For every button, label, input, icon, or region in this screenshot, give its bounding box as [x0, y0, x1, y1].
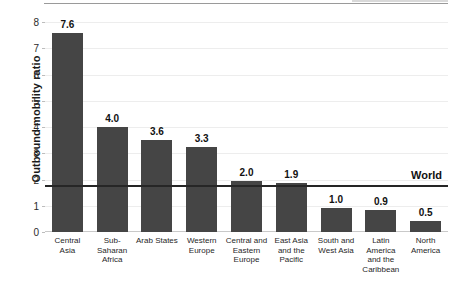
bar[interactable]	[365, 210, 396, 232]
bar[interactable]	[276, 183, 307, 232]
x-axis-category-label: Western Europe	[179, 236, 224, 255]
top-rule-faint-mark	[352, 0, 448, 2]
bar[interactable]	[186, 147, 217, 232]
y-axis-tick-label: 3	[33, 148, 39, 159]
bar-value-label: 3.3	[195, 133, 209, 144]
gridline	[45, 22, 448, 23]
y-axis-tick-mark	[42, 180, 45, 181]
plot-area: 0123456787.64.03.63.32.01.91.00.90.5Worl…	[45, 22, 448, 232]
y-axis-tick-mark	[42, 48, 45, 49]
y-axis-tick-mark	[42, 127, 45, 128]
y-axis-tick-label: 5	[33, 95, 39, 106]
x-axis-category-label: South and West Asia	[314, 236, 359, 255]
y-axis-tick-label: 1	[33, 200, 39, 211]
x-axis-category-label: Sub-Saharan Africa	[90, 236, 135, 265]
gridline	[45, 48, 448, 49]
bar-value-label: 0.5	[419, 207, 433, 218]
bar-value-label: 1.0	[329, 194, 343, 205]
x-axis-category-label: Central and Eastern Europe	[224, 236, 269, 265]
bar[interactable]	[97, 127, 128, 232]
bar[interactable]	[52, 33, 83, 233]
y-axis-tick-label: 4	[33, 122, 39, 133]
y-axis-tick-label: 0	[33, 227, 39, 238]
y-axis-tick-mark	[42, 75, 45, 76]
y-axis-tick-label: 8	[33, 17, 39, 28]
y-axis-tick-label: 6	[33, 69, 39, 80]
y-axis-tick-mark	[42, 101, 45, 102]
bar-value-label: 2.0	[240, 167, 254, 178]
x-axis-category-label: North America	[403, 236, 448, 255]
gridline	[45, 75, 448, 76]
world-reference-label: World	[411, 169, 442, 181]
bar[interactable]	[231, 181, 262, 232]
y-axis-tick-mark	[42, 153, 45, 154]
bar[interactable]	[321, 208, 352, 232]
chart-figure: Outbound mobility ratio 0123456787.64.03…	[0, 0, 449, 283]
x-axis-category-label: Central Asia	[45, 236, 90, 255]
bar-value-label: 7.6	[60, 19, 74, 30]
x-axis-category-label: Latin America and the Caribbean	[358, 236, 403, 274]
gridline	[45, 101, 448, 102]
bar-value-label: 3.6	[150, 126, 164, 137]
y-axis-tick-label: 2	[33, 174, 39, 185]
y-axis-tick-mark	[42, 206, 45, 207]
x-axis-category-label: East Asia and the Pacific	[269, 236, 314, 265]
y-axis-tick-mark	[42, 232, 45, 233]
world-reference-line	[45, 185, 448, 187]
bar-value-label: 1.9	[284, 169, 298, 180]
x-axis-category-label: Arab States	[135, 236, 180, 246]
top-rule-divider	[44, 3, 448, 4]
bar[interactable]	[410, 221, 441, 232]
bar-value-label: 4.0	[105, 113, 119, 124]
y-axis-tick-mark	[42, 22, 45, 23]
bar-value-label: 0.9	[374, 196, 388, 207]
y-axis-tick-label: 7	[33, 43, 39, 54]
